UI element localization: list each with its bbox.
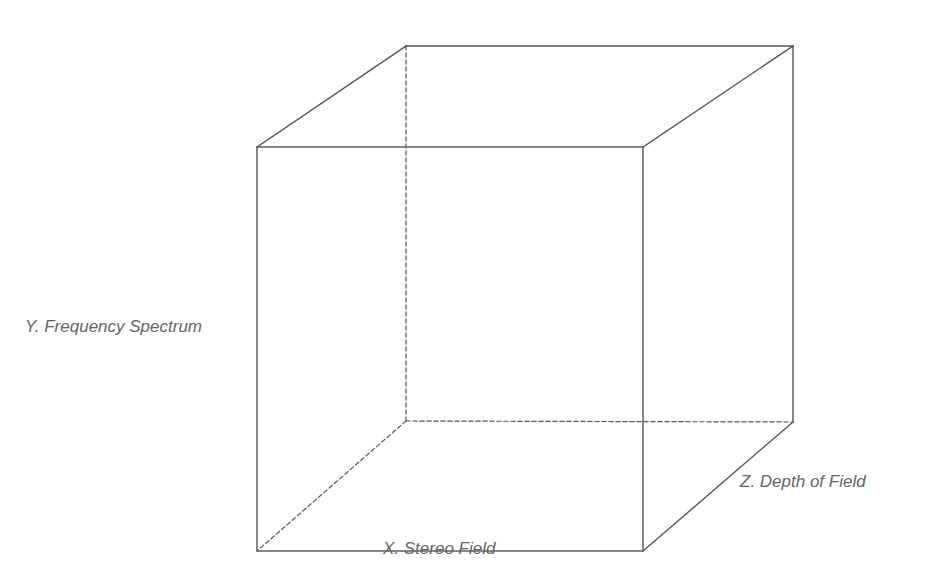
- visible-edges: [257, 46, 793, 551]
- edge-top-left-depth: [257, 46, 406, 147]
- edge-back-bottom: [406, 421, 793, 422]
- x-axis-label: X. Stereo Field: [383, 540, 495, 557]
- z-axis-label: Z. Depth of Field: [740, 473, 866, 490]
- edge-top-right-depth: [643, 46, 793, 147]
- hidden-edges: [257, 46, 793, 551]
- y-axis-label: Y. Frequency Spectrum: [25, 318, 202, 335]
- front-face: [257, 147, 643, 551]
- edge-bottom-left-depth: [257, 421, 406, 551]
